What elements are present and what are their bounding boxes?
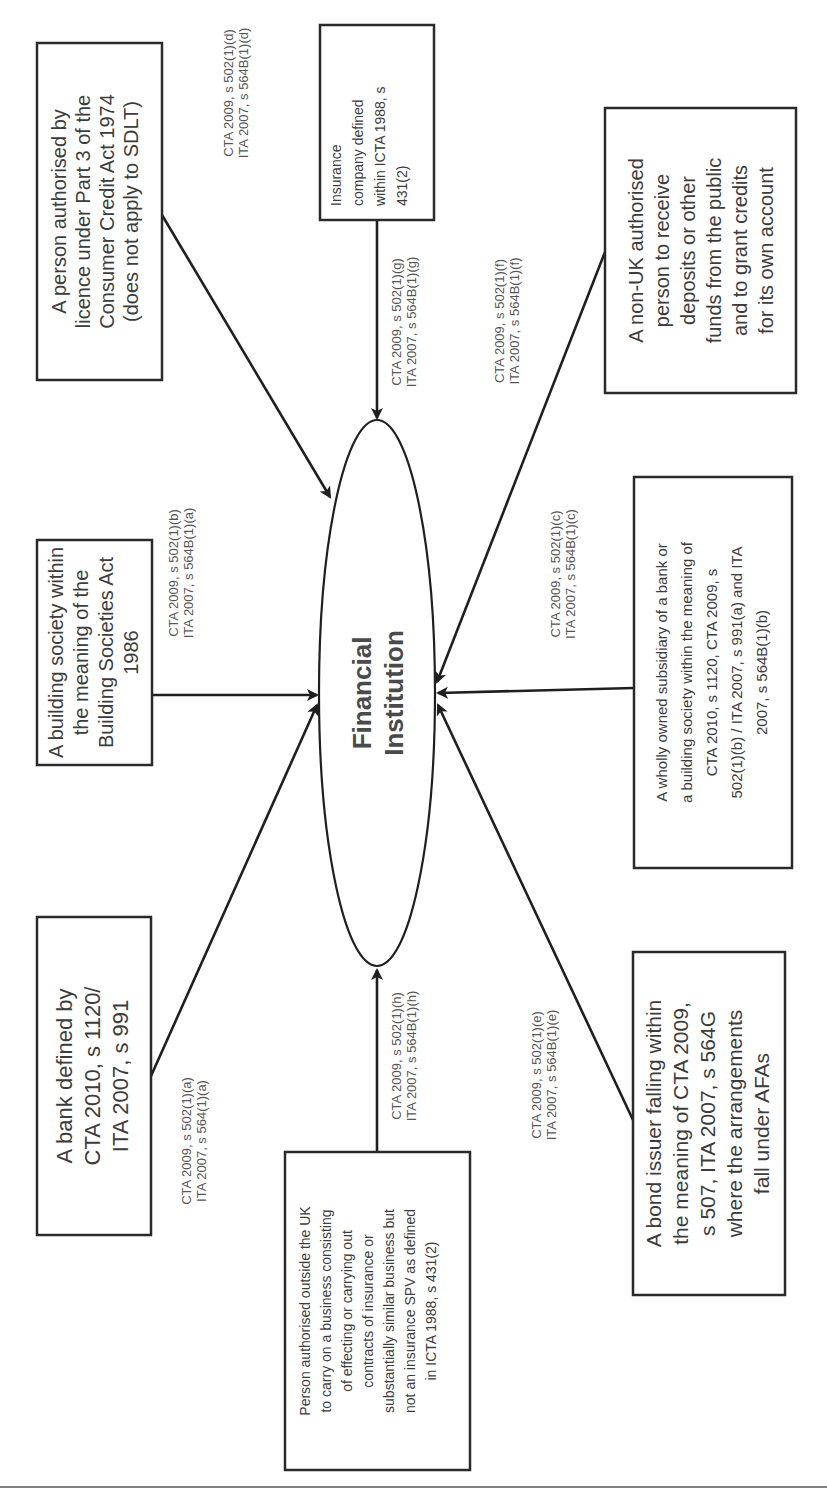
node-text-line: person to receive [651,174,673,327]
node-text-line: in ICTA 1988, s 431(2) [423,1241,439,1380]
edge-reference-label: ITA 2007, s 564B(1)(d) [236,28,251,159]
node-text-line: the meaning of CTA 2009, [669,1002,692,1244]
node-text-line: A bond issuer falling within [642,1000,665,1247]
edge-reference-label: CTA 2009, s 502(1)(a) [179,1077,194,1205]
node-text-line: A building society within [45,547,67,758]
node-text-line: A bank defined by [52,989,77,1164]
edge-reference-label: ITA 2007, s 564B(1)(c) [563,509,578,639]
node-text-line: within ICTA 1988, s [372,86,388,207]
node-text-line: to carry on a business consisting [318,1209,334,1412]
node-wholly-owned-subsidiary: A wholly owned subsidiary of a bank or a… [548,477,792,868]
edge-wholly-owned-subsidiary [438,688,634,693]
edge-reference-label: ITA 2007, s 564B(1)(f) [507,258,522,385]
edge-reference-label: CTA 2009, s 502(1)(h) [389,992,404,1120]
node-text-line: A non-UK authorised [625,158,647,343]
node-text-line: CTA 2010, s 1120, CTA 2009, s [703,569,720,777]
edge-reference-label: CTA 2009, s 502(1)(d) [221,29,236,157]
edge-reference-label: CTA 2009, s 502(1)(f) [492,259,507,383]
node-bond-issuer: A bond issuer falling within the meaning… [529,952,785,1295]
node-text-line: (does not apply to SDLT) [120,101,142,322]
edge-reference-label: ITA 2007, s 564(1)(a) [194,1080,209,1202]
node-text-line: ITA 2007, s 991 [108,1000,133,1152]
node-text-line: Person authorised outside the UK [297,1206,313,1416]
financial-institution-node: Financial Institution [319,420,435,966]
node-text-line: 431(2) [394,166,410,206]
edge-consumer-credit [162,215,330,497]
node-text-line: Building Societies Act [95,556,117,748]
node-text-line: CTA 2010, s 1120/ [80,986,105,1166]
edge-reference-label: ITA 2007, s 564B(1)(e) [544,1010,559,1141]
node-text-line: 1986 [120,630,142,675]
node-text-line: company defined [350,99,366,206]
node-text-line: 2007, s 564B(1)(b) [753,610,770,735]
node-consumer-credit: A person authorised by licence under Par… [37,28,251,380]
node-text-line: substantially similar business but [381,1209,397,1413]
center-title-line2: Institution [379,630,409,756]
edge-reference-label: CTA 2009, s 502(1)(c) [548,511,563,638]
edge-reference-label: CTA 2009, s 502(1)(g) [389,258,404,386]
node-text-line: where the arrangements [723,1010,746,1239]
node-text-line: funds from the public [703,158,725,344]
node-bank: A bank defined by CTA 2010, s 1120/ ITA … [37,917,209,1235]
edge-bank [151,705,317,1076]
node-text-line: A person authorised by [48,109,70,314]
node-text-line: for its own account [755,167,777,334]
node-text-line: A wholly owned subsidiary of a bank or [653,543,670,801]
node-text-line: deposits or other [677,176,699,325]
edge-reference-label: CTA 2009, s 502(1)(e) [529,1011,544,1139]
node-building-society: A building society within the meaning of… [37,508,196,765]
node-text-line: s 507, ITA 2007, s 564G [696,1011,719,1236]
edge-reference-label: ITA 2007, s 564B(1)(g) [404,257,419,388]
node-text-line: 502(1)(b) / ITA 2007, s 991(a) and ITA [728,546,745,798]
node-text-line: Insurance [328,144,344,206]
node-text-line: of effecting or carrying out [339,1230,355,1392]
node-text-line: a building society within the meaning of [678,541,695,803]
node-text-line: contracts of insurance or [360,1234,376,1388]
center-title-line1: Financial [347,637,377,750]
node-text-line: fall under AFAs [750,1053,773,1194]
node-text-line: the meaning of the [70,570,92,736]
node-text-line: and to grant credits [729,165,751,336]
node-non-uk-authorised: A non-UK authorised person to receive de… [492,108,796,393]
financial-institution-diagram: Financial Institution A person authorise… [0,0,827,1505]
node-text-line: not an insurance SPV as defined [402,1209,418,1413]
edge-reference-label: ITA 2007, s 564B(1)(h) [404,991,419,1122]
node-text-line: Consumer Credit Act 1974 [96,94,118,329]
edge-reference-label: CTA 2009, s 502(1)(b) [166,509,181,637]
node-text-line: licence under Part 3 of the [72,95,94,328]
edge-reference-label: ITA 2007, s 564B(1)(a) [181,508,196,639]
